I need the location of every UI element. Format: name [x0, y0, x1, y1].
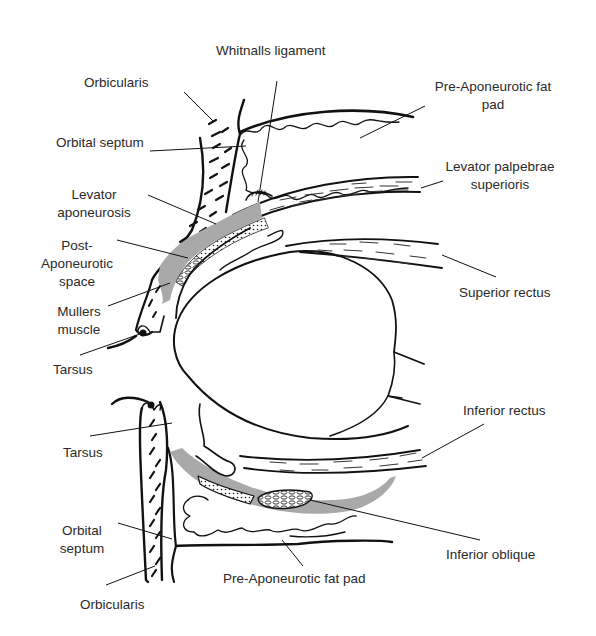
- label-line: Orbital: [52, 522, 112, 540]
- label-pre-aponeurotic-fat-pad-lower: Pre-Aponeurotic fat pad: [223, 570, 366, 588]
- label-line: space: [32, 273, 122, 291]
- leader-orbicularis-upper: [184, 92, 213, 121]
- leader-whitnalls: [258, 81, 277, 202]
- label-tarsus-upper: Tarsus: [53, 361, 93, 379]
- label-inferior-oblique: Inferior oblique: [446, 546, 535, 564]
- label-line: Levator palpebrae: [425, 158, 575, 176]
- label-line: Post-: [32, 237, 122, 255]
- label-line: Pre-Aponeurotic fat: [408, 78, 578, 96]
- label-pre-aponeurotic-fat-pad-upper: Pre-Aponeurotic fat pad: [408, 78, 578, 114]
- lower-orbicularis: [140, 402, 167, 582]
- inferior-rectus: [240, 450, 426, 473]
- label-whitnalls-ligament: Whitnalls ligament: [216, 42, 326, 60]
- label-line: muscle: [46, 321, 112, 339]
- label-line: Levator: [48, 186, 140, 204]
- label-post-aponeurotic-space: Post- Aponeurotic space: [32, 237, 122, 291]
- label-line: pad: [408, 96, 578, 114]
- leader-inferior-rectus: [422, 424, 484, 458]
- label-tarsus-lower: Tarsus: [63, 444, 103, 462]
- label-inferior-rectus: Inferior rectus: [463, 402, 546, 420]
- label-mullers-muscle: Mullers muscle: [46, 303, 112, 339]
- label-orbital-septum-lower: Orbital septum: [52, 522, 112, 558]
- label-line: Aponeurotic: [32, 255, 122, 273]
- lower-orbital-septum: [168, 448, 176, 582]
- label-orbital-septum-upper: Orbital septum: [56, 134, 144, 152]
- label-line: aponeurosis: [48, 204, 140, 222]
- superior-rectus: [286, 239, 442, 268]
- label-orbicularis-lower: Orbicularis: [80, 596, 145, 614]
- label-line: septum: [52, 540, 112, 558]
- leader-levator-aponeurosis: [148, 195, 216, 224]
- label-levator-aponeurosis: Levator aponeurosis: [48, 186, 140, 222]
- label-levator-palpebrae-superioris: Levator palpebrae superioris: [425, 158, 575, 194]
- leader-tarsus-lower: [90, 423, 172, 436]
- label-line: Mullers: [46, 303, 112, 321]
- eye-globe: [174, 251, 424, 439]
- upper-eyelid: [108, 100, 442, 348]
- label-superior-rectus: Superior rectus: [459, 284, 551, 302]
- upper-orbital-septum: [226, 100, 244, 212]
- label-line: superioris: [425, 176, 575, 194]
- label-orbicularis-upper: Orbicularis: [84, 74, 149, 92]
- leader-superior-rectus: [442, 255, 496, 277]
